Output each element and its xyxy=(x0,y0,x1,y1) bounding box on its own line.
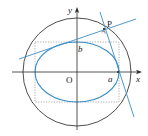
ellipse-director-circle-diagram: y x O b a P xyxy=(0,0,148,136)
x-axis-label: x xyxy=(135,74,140,84)
b-label: b xyxy=(78,44,83,54)
tangent-line-2 xyxy=(100,12,134,117)
a-label: a xyxy=(108,74,113,84)
origin-label: O xyxy=(66,75,73,85)
tangent-point-dot xyxy=(117,71,119,73)
point-P-dot xyxy=(103,28,105,30)
y-axis-label: y xyxy=(67,5,72,15)
right-angle-marker xyxy=(102,31,106,34)
point-P-label: P xyxy=(107,19,112,29)
